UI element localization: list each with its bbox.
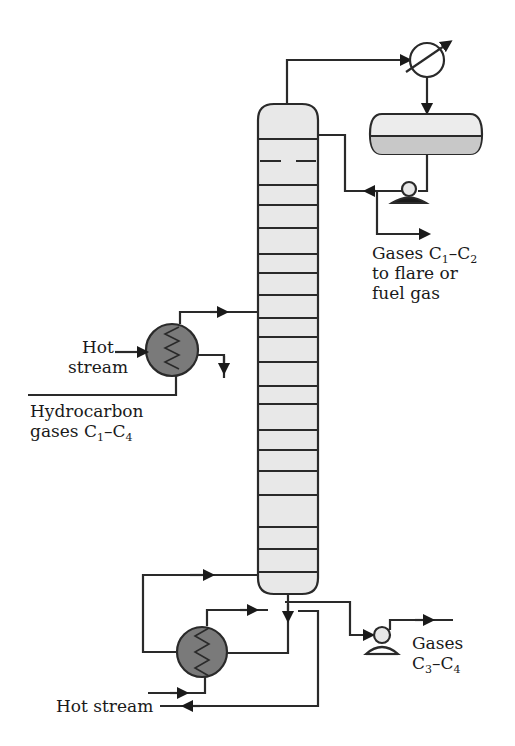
- bottoms-pump: [366, 627, 398, 654]
- feed-preheater: [146, 324, 198, 376]
- overhead-vapor-line: [287, 60, 409, 104]
- bottom-product-label: Gases C3–C4: [412, 633, 463, 673]
- drum-outlet-line: [418, 154, 427, 191]
- bottoms-product-out: [390, 620, 453, 630]
- top-product-label: Gases C1–C2 to flare or fuel gas: [372, 243, 477, 303]
- hot-stream-out-line: [198, 355, 224, 378]
- heated-feed-line: [180, 312, 258, 324]
- feed-label: Hydrocarbon gases C1–C4: [30, 401, 144, 441]
- bottom-product-line: [285, 602, 372, 635]
- reboiler-hot-in: [148, 677, 205, 693]
- reboiler-hot-stream-label: Hot stream: [56, 696, 153, 716]
- reflux-pump: [392, 182, 426, 203]
- reboiler: [177, 627, 227, 677]
- reflux-drum: [370, 114, 483, 154]
- hydrocarbon-feed-line: [28, 376, 176, 395]
- distillation-column: [258, 104, 318, 594]
- bottoms-to-reboiler: [227, 594, 288, 653]
- overhead-condenser: [406, 42, 450, 77]
- feed-hot-stream-label: Hot stream: [68, 337, 128, 377]
- reboiler-steam-top: [207, 610, 268, 626]
